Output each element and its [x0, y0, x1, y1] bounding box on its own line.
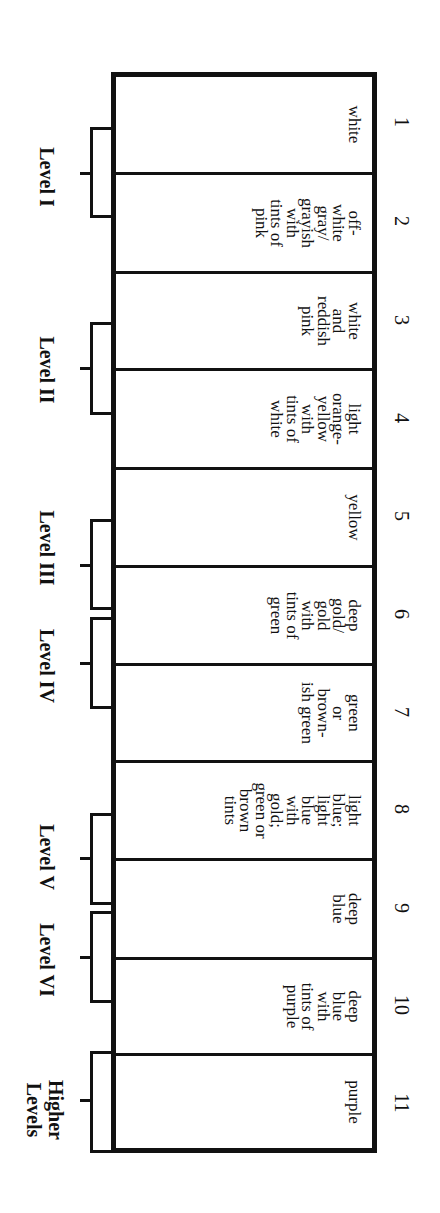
color-cell-2: off- white gray/ grayish with tints of p… — [116, 172, 372, 271]
color-cell-text: light orange- yellow with tints of white — [269, 371, 362, 467]
color-cell-3: white and reddish pink — [116, 271, 372, 368]
level-bracket-1 — [90, 127, 111, 218]
level-label-6: Level VI — [35, 900, 58, 1020]
color-cell-5: yellow — [116, 467, 372, 565]
column-number-8: 8 — [390, 789, 414, 829]
level-bracket-4 — [90, 617, 111, 709]
column-number-7: 7 — [390, 692, 414, 732]
color-cell-6: deep gold/ gold with tints of green — [116, 565, 372, 663]
column-number-9: 9 — [390, 888, 414, 928]
color-level-diagram: 1 2 3 4 5 6 7 8 9 10 11 white off- white… — [0, 0, 440, 1213]
color-cell-11: purple — [116, 1053, 372, 1148]
level-bracket-6 — [90, 911, 111, 1003]
column-number-2: 2 — [390, 201, 414, 241]
color-cell-7: green or brown- ish green — [116, 663, 372, 760]
color-cell-text: white — [347, 77, 363, 172]
color-cell-text: white and reddish pink — [300, 274, 362, 368]
level-tick-3 — [80, 564, 90, 567]
level-tick-4 — [80, 662, 90, 665]
level-bracket-2 — [90, 322, 111, 415]
column-number-3: 3 — [390, 300, 414, 340]
level-tick-1 — [80, 172, 90, 175]
column-number-6: 6 — [390, 594, 414, 634]
color-cell-text: green or brown- ish green — [300, 666, 362, 760]
color-cell-1: white — [116, 77, 372, 172]
level-tick-2 — [80, 367, 90, 370]
level-tick-higher — [80, 1099, 90, 1102]
color-cell-9: deep blue — [116, 858, 372, 957]
level-label-higher: Higher Levels — [23, 1050, 67, 1170]
column-number-10: 10 — [390, 985, 414, 1025]
color-cell-text: purple — [347, 1056, 363, 1148]
level-label-2: Level II — [35, 310, 58, 430]
color-cell-4: light orange- yellow with tints of white — [116, 368, 372, 467]
color-cell-text: yellow — [347, 470, 363, 565]
color-cell-text: light blue; light blue with gold; green … — [223, 763, 363, 858]
column-number-1: 1 — [390, 102, 414, 142]
level-tick-6 — [80, 956, 90, 959]
level-label-5: Level V — [35, 797, 58, 917]
level-bracket-3 — [90, 519, 111, 610]
color-cell-text: deep blue — [331, 861, 362, 957]
color-table: white off- white gray/ grayish with tint… — [111, 72, 377, 1153]
level-label-3: Level III — [35, 488, 58, 608]
column-number-5: 5 — [390, 496, 414, 536]
column-number-11: 11 — [390, 1083, 414, 1123]
color-cell-text: deep gold/ gold with tints of green — [269, 568, 362, 663]
level-label-4: Level IV — [35, 606, 58, 726]
level-bracket-higher — [90, 1051, 111, 1153]
level-label-1: Level I — [35, 117, 58, 237]
color-cell-text: deep blue with tints of purple — [285, 960, 363, 1053]
level-tick-5 — [80, 857, 90, 860]
level-bracket-5 — [90, 813, 111, 905]
column-number-4: 4 — [390, 398, 414, 438]
color-cell-10: deep blue with tints of purple — [116, 957, 372, 1053]
color-cell-8: light blue; light blue with gold; green … — [116, 760, 372, 858]
color-cell-text: off- white gray/ grayish with tints of p… — [254, 175, 363, 271]
